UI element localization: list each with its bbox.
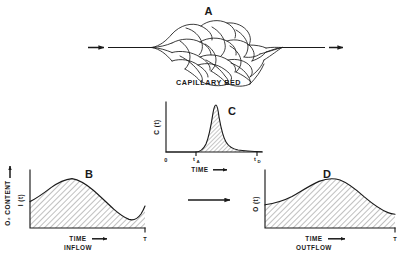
panel-d-chart: D O (t) TIME OUTFLOW T xyxy=(252,168,397,251)
panel-c-xtick-td: t D xyxy=(254,156,261,164)
panel-a-capillary-bed: A xyxy=(88,5,343,87)
panel-b-letter: B xyxy=(85,168,93,180)
panel-c-xtick-td-sub: D xyxy=(258,159,261,164)
panel-c-letter: C xyxy=(228,105,236,117)
panel-a-letter: A xyxy=(204,5,212,17)
capillary-bed-caption: CAPILLARY BED xyxy=(176,78,241,87)
panel-c-xtick-ta: t A xyxy=(193,156,201,164)
capillary-mesh xyxy=(172,21,266,87)
panel-d-xlabel: TIME xyxy=(305,235,323,242)
panel-b-ylabel-outer: O₂ CONTENT xyxy=(4,180,11,225)
panel-c-xlabel: TIME xyxy=(191,166,209,173)
panel-c-xtick-origin: 0 xyxy=(164,157,167,163)
panel-d-letter: D xyxy=(323,168,331,180)
figure-canvas: A xyxy=(0,0,417,256)
panel-b-ylabel-outer-group: O₂ CONTENT xyxy=(4,166,11,226)
panel-b-xlabel: TIME xyxy=(69,235,87,242)
afferent-branching xyxy=(152,34,172,61)
panel-c-chart: C C (t) 0 t A t D TIME xyxy=(153,102,262,173)
panel-c-ylabel: C (t) xyxy=(153,119,161,134)
panel-b-xsublabel: INFLOW xyxy=(64,244,93,251)
panel-d-xtick-end: T xyxy=(393,236,397,242)
panel-c-xtick-td-base: t xyxy=(254,156,256,162)
panel-d-area-fill xyxy=(265,179,395,228)
panel-b-xtick-end: T xyxy=(143,236,147,242)
panel-c-xtick-ta-sub: A xyxy=(197,159,201,164)
efferent-branching xyxy=(260,47,282,60)
panel-d-xsublabel: OUTFLOW xyxy=(296,244,332,251)
panel-b-ylabel-inner: I (t) xyxy=(17,194,25,206)
panel-d-ylabel: O (t) xyxy=(252,196,260,212)
panel-b-chart: B O₂ CONTENT I (t) TIME INFLOW T xyxy=(4,166,147,251)
panel-c-area-fill xyxy=(166,105,262,152)
panel-c-xtick-ta-base: t xyxy=(193,156,195,162)
